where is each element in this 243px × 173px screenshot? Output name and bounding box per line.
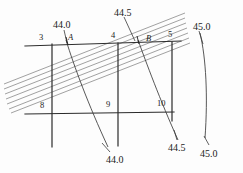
contour-label-44-5-top: 44.5 <box>114 8 132 18</box>
point-label-a: A <box>68 33 73 42</box>
leader-44-0-bot <box>102 143 110 152</box>
contour-label-44-5-bottom: 44.5 <box>168 143 186 153</box>
grid-label-bottom-8: 8 <box>40 101 44 110</box>
leader-45-0-top <box>199 31 203 44</box>
grid-frame <box>25 41 181 147</box>
leader-44-5-bot <box>174 130 177 140</box>
grid-label-top-5: 5 <box>168 30 172 39</box>
contour-label-45-0-top: 45.0 <box>193 22 211 32</box>
grid-label-bottom-9: 9 <box>106 100 110 109</box>
contour-label-44-0-bottom: 44.0 <box>106 155 124 165</box>
grid-line-middle <box>25 112 174 114</box>
point-label-b: B <box>146 34 151 43</box>
leader-45-0-bot <box>204 136 209 145</box>
contour-curves <box>66 33 206 147</box>
grid-label-top-4: 4 <box>111 31 115 40</box>
contour-45-0 <box>200 33 206 138</box>
contour-label-44-0-top: 44.0 <box>53 20 71 30</box>
contour-label-45-0-bottom: 45.0 <box>200 149 218 159</box>
contour-diagram: 3 4 5 8 9 10 A B 44.0 44.5 45.0 44.0 44.… <box>0 0 243 173</box>
grid-label-top-3: 3 <box>39 33 43 42</box>
grid-label-bottom-10: 10 <box>157 99 166 108</box>
leader-44-5-top <box>124 17 135 41</box>
